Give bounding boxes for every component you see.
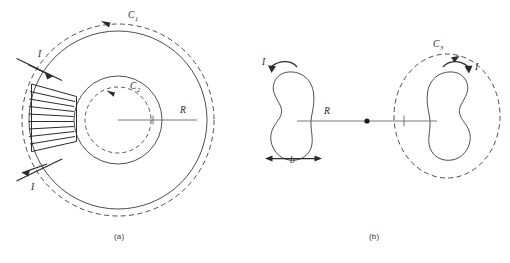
figure-svg: C 1 C 2 R I I bbox=[0, 0, 510, 263]
label-current-right: I bbox=[474, 62, 479, 72]
label-radius-a: R bbox=[179, 105, 186, 115]
label-c3: C bbox=[433, 39, 440, 49]
label-width-b: b bbox=[290, 155, 295, 165]
label-current-out: I bbox=[30, 182, 35, 192]
caption-panel-b: (b) bbox=[369, 232, 379, 241]
label-current-in: I bbox=[37, 49, 42, 59]
label-c1: C bbox=[128, 10, 135, 20]
current-arrow-right bbox=[465, 66, 473, 74]
c1-direction-arrow bbox=[101, 21, 111, 28]
current-arrow-left bbox=[268, 65, 276, 73]
caption-panel-a: (a) bbox=[114, 232, 124, 241]
current-arc-left bbox=[272, 62, 297, 67]
lead-wire-top-arrow-shaft bbox=[28, 65, 53, 77]
label-c2: C bbox=[130, 81, 137, 91]
label-c2-subscript: 2 bbox=[137, 86, 141, 93]
current-loop-right bbox=[427, 72, 470, 160]
label-current-left: I bbox=[261, 57, 266, 67]
amperian-loop-c3 bbox=[394, 54, 500, 178]
current-loop-left bbox=[271, 72, 314, 160]
dimension-arrow-right bbox=[315, 156, 323, 162]
panel-b: C 3 R b I I bbox=[261, 39, 500, 178]
midpoint-dot bbox=[364, 118, 369, 123]
figure-container: C 1 C 2 R I I bbox=[0, 0, 510, 263]
current-arc-right bbox=[443, 62, 468, 67]
c2-direction-arrow bbox=[107, 91, 116, 97]
panel-a: C 1 C 2 R I I bbox=[17, 10, 215, 216]
label-c3-subscript: 3 bbox=[439, 44, 444, 51]
label-separation-r: R bbox=[323, 106, 330, 116]
label-c1-subscript: 1 bbox=[135, 15, 138, 22]
dimension-arrow-left bbox=[265, 156, 273, 162]
coil-windings bbox=[29, 84, 77, 152]
